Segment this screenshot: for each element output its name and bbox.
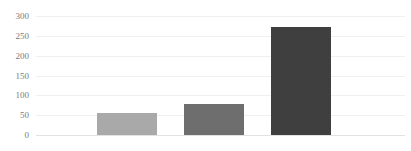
bar-series-item: [97, 113, 157, 135]
plot-area: [36, 0, 405, 151]
bar-chart: 300 250 200 150 100 50 0: [0, 0, 411, 151]
y-axis-tick-label: 100: [16, 91, 30, 100]
bars-layer: [36, 0, 405, 151]
y-axis-tick-label: 50: [20, 111, 29, 120]
y-axis-tick-label: 0: [25, 131, 30, 140]
y-axis-tick-label: 200: [16, 51, 30, 60]
y-axis-tick-label: 300: [16, 12, 30, 21]
y-axis-tick-label: 250: [16, 31, 30, 40]
bar-series-item: [271, 27, 331, 135]
y-axis-tick-label: 150: [16, 71, 30, 80]
y-axis: 300 250 200 150 100 50 0: [0, 0, 33, 151]
bar-series-item: [184, 104, 244, 135]
